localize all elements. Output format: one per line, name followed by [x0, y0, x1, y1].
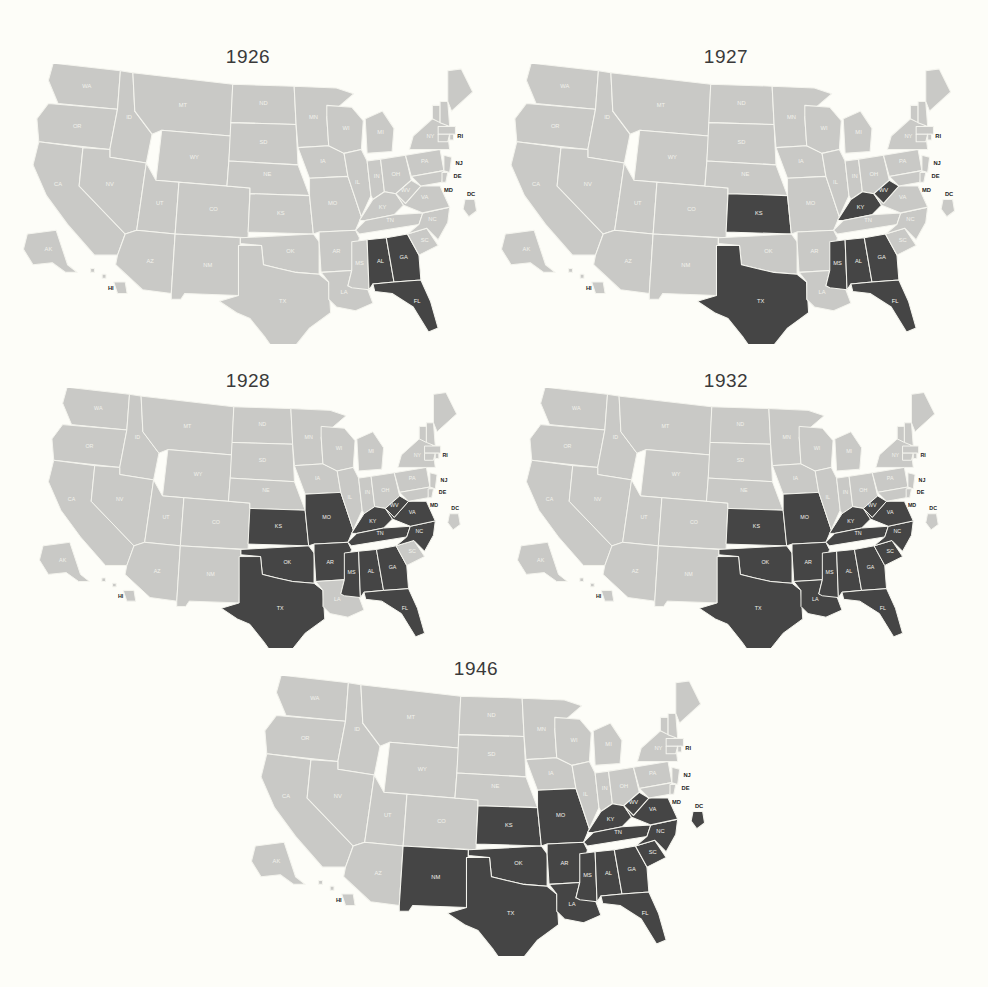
state-label: TX — [757, 298, 765, 304]
state-label: IL — [583, 791, 588, 797]
state-label: MN — [309, 114, 318, 120]
state-label: SD — [737, 139, 745, 145]
state-label: AR — [810, 248, 818, 254]
callout-label: HI — [108, 285, 114, 291]
state-label: SC — [421, 237, 429, 243]
state-de — [920, 173, 926, 183]
state-ma — [438, 126, 455, 134]
state-label: GA — [399, 254, 407, 260]
state-label: FL — [414, 298, 421, 304]
state-label: NE — [262, 487, 270, 493]
state-label: NC — [906, 216, 914, 222]
state-label: KS — [275, 523, 283, 529]
state-nh — [904, 423, 913, 446]
state-label: IN — [843, 489, 848, 495]
state-label: OK — [283, 559, 291, 565]
callout-label: DC — [467, 191, 475, 197]
callout-label: NJ — [441, 477, 448, 483]
us-map: WAORCAIDNVMTWYUTAZCONMNDSDNEKSOKTXMNIAMO… — [18, 388, 478, 648]
state-label: SC — [886, 548, 894, 554]
state-label: OR — [551, 123, 560, 129]
state-label: VA — [649, 806, 656, 812]
state-label: CO — [209, 206, 218, 212]
state-label: WY — [668, 154, 677, 160]
state-ri — [913, 453, 917, 458]
state-label: MN — [787, 114, 796, 120]
state-label: MO — [556, 812, 566, 818]
state-nj — [672, 767, 680, 784]
map-panel-1928: 1928 WAORCAIDNVMTWYUTAZCONMNDSDNEKSOKTXM… — [18, 366, 478, 646]
state-ri — [435, 453, 439, 458]
state-label: WA — [572, 405, 581, 411]
state-label: PA — [899, 158, 906, 164]
state-label: IA — [798, 158, 804, 164]
callout-label: DE — [917, 489, 925, 495]
state-nh — [918, 102, 928, 127]
state-label: SD — [259, 139, 267, 145]
state-label: MI — [846, 448, 852, 454]
state-label: KY — [369, 518, 377, 524]
state-label: CO — [212, 519, 220, 525]
state-label: TX — [755, 605, 762, 611]
state-dc — [463, 199, 476, 216]
state-label: NV — [584, 181, 592, 187]
state-label: NM — [206, 571, 214, 577]
state-label: PA — [421, 158, 428, 164]
callout-label: MD — [430, 502, 438, 508]
callout-label: DE — [932, 173, 940, 179]
state-label: ND — [487, 712, 495, 718]
state-label: TN — [854, 530, 861, 536]
state-label: AK — [273, 858, 281, 864]
state-me — [433, 393, 456, 432]
state-label: AK — [45, 246, 53, 252]
state-label: KS — [277, 210, 285, 216]
state-fl — [364, 589, 425, 637]
state-fl — [851, 280, 916, 332]
state-label: OR — [73, 123, 82, 129]
state-label: OR — [85, 443, 93, 449]
state-me — [911, 393, 934, 432]
state-label: FL — [402, 605, 408, 611]
callout-label: MD — [922, 187, 931, 193]
state-label: NM — [681, 262, 690, 268]
state-label: NY — [654, 745, 662, 751]
state-label: SC — [408, 548, 416, 554]
state-label: AK — [59, 557, 67, 563]
callout-label: HI — [596, 593, 602, 599]
state-dc — [926, 514, 938, 530]
state-dc — [691, 811, 704, 828]
state-nh — [440, 102, 450, 127]
state-label: CO — [437, 818, 446, 824]
state-label: ID — [613, 434, 618, 440]
callout-label: RI — [935, 133, 941, 139]
state-label: KY — [379, 204, 387, 210]
state-label: NE — [491, 783, 499, 789]
state-nh — [668, 714, 678, 739]
state-dc — [941, 199, 954, 216]
state-label: CO — [690, 519, 698, 525]
callout-label: NJ — [683, 772, 690, 778]
state-label: PA — [649, 770, 656, 776]
state-label: AL — [368, 568, 375, 574]
state-label: MI — [368, 448, 374, 454]
state-label: CA — [532, 181, 540, 187]
state-label: MO — [322, 514, 331, 520]
state-label: WV — [879, 187, 888, 193]
state-ct — [438, 134, 450, 142]
callout-label: DC — [945, 191, 953, 197]
state-ct — [916, 134, 928, 142]
state-label: KY — [607, 816, 615, 822]
state-label: VA — [421, 194, 428, 200]
state-label: MT — [184, 423, 192, 429]
state-label: NC — [415, 528, 423, 534]
state-label: OH — [859, 487, 867, 493]
state-label: NE — [740, 487, 748, 493]
state-label: LA — [812, 596, 819, 602]
state-label: FL — [892, 298, 899, 304]
state-label: FL — [642, 910, 649, 916]
callout-label: DC — [451, 505, 459, 511]
state-label: TX — [279, 298, 287, 304]
state-label: OK — [514, 860, 522, 866]
state-label: MO — [800, 514, 809, 520]
state-label: NC — [428, 216, 436, 222]
